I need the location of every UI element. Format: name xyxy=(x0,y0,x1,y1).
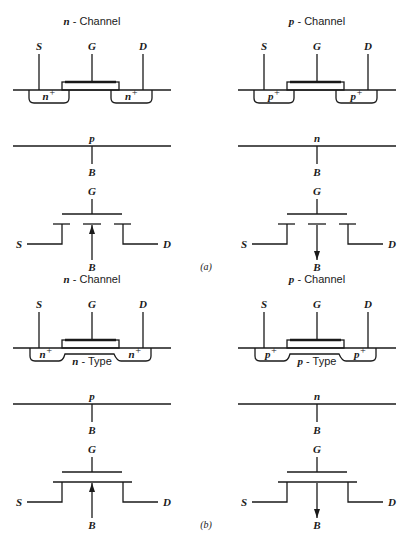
symbol-drain-label: D xyxy=(387,496,396,508)
substrate-label: n xyxy=(314,390,320,402)
device-a-n-channel: n - ChannelSGDn+n+pBGSDB xyxy=(13,15,171,273)
panel-caption-b: (b) xyxy=(200,519,212,531)
symbol-drain-label: D xyxy=(162,238,171,250)
symbol-source-label: S xyxy=(16,496,22,508)
source-well-label: p+ xyxy=(264,345,277,360)
drain-label: D xyxy=(363,298,372,310)
device-b-p-channel: p - ChannelSGDp+p+p - TypenBGSDB xyxy=(238,273,396,531)
body-arrow-out-icon xyxy=(314,509,320,518)
gate-label: G xyxy=(313,298,321,310)
body-arrow-in-icon xyxy=(89,483,95,492)
gate-label: G xyxy=(313,40,321,52)
symbol-body-label: B xyxy=(87,261,95,273)
symbol-body-label: B xyxy=(87,519,95,531)
body-arrow-out-icon xyxy=(314,251,320,260)
drain-label: D xyxy=(138,298,147,310)
panel-caption-a: (a) xyxy=(200,261,212,273)
device-title: n - Channel xyxy=(64,273,121,285)
symbol-source-label: S xyxy=(241,496,247,508)
mosfet-figure: n - ChannelSGDn+n+pBGSDBp - ChannelSGDp+… xyxy=(0,0,412,554)
symbol-drain-label: D xyxy=(387,238,396,250)
symbol-drain-lead xyxy=(348,224,383,244)
body-label: B xyxy=(87,166,95,178)
channel-region-label: p - Type xyxy=(297,355,337,367)
body-label: B xyxy=(87,424,95,436)
mosfet-symbol: GSDB xyxy=(16,443,171,531)
drain-label: D xyxy=(138,40,147,52)
drain-well-label: n+ xyxy=(129,345,142,360)
drain-well-label: p+ xyxy=(353,345,366,360)
body-label: B xyxy=(312,166,320,178)
symbol-source-lead xyxy=(252,224,287,244)
symbol-gate-label: G xyxy=(313,185,321,197)
channel-region-label: n - Type xyxy=(72,355,112,367)
symbol-drain-lead xyxy=(348,482,383,502)
device-title: p - Channel xyxy=(288,273,345,285)
symbol-source-lead xyxy=(27,482,62,502)
mosfet-symbol: GSDB xyxy=(241,185,396,273)
symbol-gate-label: G xyxy=(88,185,96,197)
symbol-gate-label: G xyxy=(313,443,321,455)
drain-well-label: p+ xyxy=(349,87,362,102)
drain-label: D xyxy=(363,40,372,52)
device-b-n-channel: n - ChannelSGDn+n+n - TypepBGSDB xyxy=(13,273,171,531)
gate-label: G xyxy=(88,40,96,52)
mosfet-symbol: GSDB xyxy=(16,185,171,273)
symbol-body-label: B xyxy=(312,519,320,531)
device-title: n - Channel xyxy=(64,15,121,27)
mosfet-symbol: GSDB xyxy=(241,443,396,531)
source-label: S xyxy=(36,298,42,310)
source-label: S xyxy=(261,298,267,310)
symbol-source-label: S xyxy=(16,238,22,250)
symbol-body-label: B xyxy=(312,261,320,273)
source-well-label: n+ xyxy=(43,87,56,102)
drain-well-label: n+ xyxy=(125,87,138,102)
source-well-label: n+ xyxy=(40,345,53,360)
symbol-gate-label: G xyxy=(88,443,96,455)
substrate-label: p xyxy=(88,132,95,144)
substrate-label: n xyxy=(314,132,320,144)
source-label: S xyxy=(36,40,42,52)
symbol-drain-lead xyxy=(123,482,158,502)
body-arrow-in-icon xyxy=(89,225,95,234)
symbol-drain-label: D xyxy=(162,496,171,508)
symbol-drain-lead xyxy=(123,224,158,244)
body-label: B xyxy=(312,424,320,436)
substrate-label: p xyxy=(88,390,95,402)
device-title: p - Channel xyxy=(288,15,345,27)
symbol-source-lead xyxy=(27,224,62,244)
symbol-source-label: S xyxy=(241,238,247,250)
source-label: S xyxy=(261,40,267,52)
gate-label: G xyxy=(88,298,96,310)
source-well-label: p+ xyxy=(267,87,280,102)
device-a-p-channel: p - ChannelSGDp+p+nBGSDB xyxy=(238,15,396,273)
symbol-source-lead xyxy=(252,482,287,502)
